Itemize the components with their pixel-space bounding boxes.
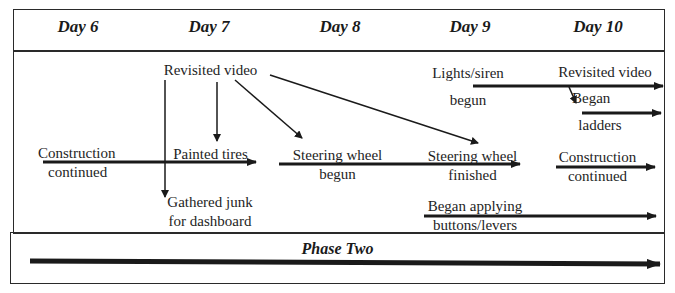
label-revisited-video-day10: Revisited video bbox=[545, 63, 665, 82]
label-line: buttons/levers bbox=[415, 216, 535, 235]
label-line: for dashboard bbox=[150, 212, 270, 231]
arrow-phase-two bbox=[30, 261, 660, 264]
arrow-video-to-steering-begun bbox=[235, 80, 302, 138]
label-line: Began applying bbox=[415, 197, 535, 216]
label-revisited-video-day7: Revisited video bbox=[148, 61, 273, 80]
label-line: begun bbox=[418, 91, 518, 110]
label-gathered-junk: Gathered junk for dashboard bbox=[150, 193, 270, 231]
label-line: continued bbox=[30, 163, 160, 182]
label-line: Steering wheel bbox=[280, 146, 395, 165]
label-steering-wheel-begun: Steering wheel begun bbox=[280, 146, 395, 184]
label-line: continued bbox=[545, 167, 650, 186]
phase-two-label: Phase Two bbox=[0, 240, 675, 258]
label-lights-siren: Lights/siren begun bbox=[418, 64, 518, 110]
label-began-ladders: Began ladders bbox=[560, 89, 640, 135]
label-steering-wheel-finished: Steering wheel finished bbox=[410, 147, 535, 185]
timeline-diagram: Day 6 Day 7 Day 8 Day 9 Day 10 Constru bbox=[0, 0, 675, 293]
label-line: ladders bbox=[560, 116, 640, 135]
label-line: finished bbox=[410, 166, 535, 185]
label-line: begun bbox=[280, 165, 395, 184]
label-construction-continued-day10: Construction continued bbox=[545, 148, 650, 186]
label-painted-tires: Painted tires bbox=[163, 145, 258, 164]
label-line: Began bbox=[560, 89, 640, 108]
label-line: Construction bbox=[30, 144, 160, 163]
label-buttons-levers: Began applying buttons/levers bbox=[415, 197, 535, 235]
label-construction-continued-day6: Construction continued bbox=[30, 144, 160, 182]
label-line: Construction bbox=[545, 148, 650, 167]
label-line: Steering wheel bbox=[410, 147, 535, 166]
label-line: Lights/siren bbox=[418, 64, 518, 83]
label-line: Gathered junk bbox=[150, 193, 270, 212]
